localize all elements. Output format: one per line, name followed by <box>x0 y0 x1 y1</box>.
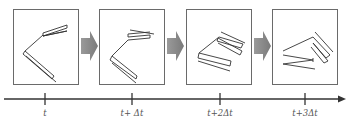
timeline-arrowhead-icon <box>338 96 346 103</box>
tick-label-t1: t+ Δt <box>121 108 144 118</box>
tick-label-t0: t <box>43 108 46 118</box>
tick-label-t2: t+2Δt <box>207 108 233 118</box>
tick-label-t3: t+3Δt <box>292 108 318 118</box>
